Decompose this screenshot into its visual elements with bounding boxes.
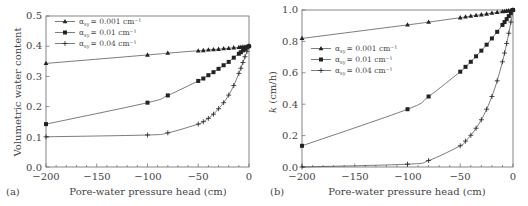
square-marker-icon bbox=[469, 60, 473, 64]
plus-marker-icon bbox=[236, 71, 241, 76]
square-marker-icon bbox=[217, 67, 221, 71]
plus-marker-icon bbox=[165, 130, 170, 135]
square-marker-icon bbox=[427, 95, 431, 99]
y-axis-label-a: Volumetric water content bbox=[12, 27, 23, 157]
square-marker-icon bbox=[63, 31, 67, 35]
square-marker-icon bbox=[458, 70, 462, 74]
x-tick-a-1: −150 bbox=[83, 171, 110, 182]
plus-marker-icon bbox=[484, 107, 489, 112]
plus-marker-icon bbox=[426, 158, 431, 163]
plus-marker-icon bbox=[489, 94, 494, 99]
plus-marker-icon bbox=[500, 59, 505, 64]
plot-area-b bbox=[300, 7, 516, 169]
plot-frame bbox=[302, 10, 513, 167]
square-marker-icon bbox=[479, 49, 483, 53]
x-tick-b-2: −100 bbox=[394, 171, 421, 182]
svg-text:αsy= 0.01 cm⁻¹: αsy= 0.01 cm⁻¹ bbox=[335, 55, 393, 66]
series-line bbox=[302, 10, 513, 146]
plus-marker-icon bbox=[502, 51, 507, 56]
y-tick-b-1: 0.2 bbox=[282, 130, 298, 141]
square-marker-icon bbox=[300, 144, 304, 148]
svg-text:αsy= 0.01 cm⁻¹: αsy= 0.01 cm⁻¹ bbox=[79, 28, 137, 39]
plus-marker-icon bbox=[145, 132, 150, 137]
x-tick-a-4: 0 bbox=[246, 171, 252, 182]
plus-marker-icon bbox=[44, 134, 49, 139]
square-marker-icon bbox=[319, 58, 323, 62]
svg-text:αsy= 0.04 cm⁻¹: αsy= 0.04 cm⁻¹ bbox=[335, 66, 393, 77]
x-tick-b-1: −150 bbox=[341, 171, 368, 182]
chart-panel-b: 0.0 0.2 0.4 0.6 0.8 1.0 −200 −150 −100 −… bbox=[264, 0, 528, 206]
x-tick-a-0: −200 bbox=[32, 171, 59, 182]
plus-marker-icon bbox=[474, 126, 479, 131]
plus-marker-icon bbox=[319, 68, 324, 73]
triangle-marker-icon bbox=[63, 19, 68, 23]
y-axis-label-b: k (cm/h) bbox=[267, 71, 278, 113]
svg-text:αsy= 0.001 cm⁻¹: αsy= 0.001 cm⁻¹ bbox=[79, 17, 141, 28]
legend-a: αsy= 0.001 cm⁻¹ αsy= 0.01 cm⁻¹ αsy= 0.04… bbox=[79, 17, 141, 50]
square-marker-icon bbox=[201, 77, 205, 81]
y-tick-a-3: 0.3 bbox=[26, 71, 42, 82]
panel-label-b: (b) bbox=[270, 186, 284, 197]
plus-marker-icon bbox=[196, 122, 201, 127]
square-marker-icon bbox=[211, 70, 215, 74]
series-line bbox=[46, 46, 249, 137]
plot-frame bbox=[46, 16, 249, 167]
x-tick-b-3: −50 bbox=[449, 171, 470, 182]
plus-marker-icon bbox=[506, 31, 511, 36]
square-marker-icon bbox=[232, 56, 236, 60]
y-tick-b-3: 0.6 bbox=[282, 67, 298, 78]
plus-marker-icon bbox=[242, 54, 247, 59]
square-marker-icon bbox=[146, 101, 150, 105]
plus-marker-icon bbox=[201, 119, 206, 124]
plus-marker-icon bbox=[226, 93, 231, 98]
square-marker-icon bbox=[474, 54, 478, 58]
y-tick-a-1: 0.1 bbox=[26, 132, 42, 143]
square-marker-icon bbox=[206, 73, 210, 77]
square-marker-icon bbox=[222, 63, 226, 67]
plus-marker-icon bbox=[63, 41, 68, 46]
plus-marker-icon bbox=[495, 78, 500, 83]
plus-marker-icon bbox=[238, 66, 243, 71]
square-marker-icon bbox=[464, 65, 468, 69]
plot-area-a bbox=[44, 16, 252, 167]
square-marker-icon bbox=[485, 43, 489, 47]
panel-label-a: (a) bbox=[6, 186, 20, 197]
y-tick-a-4: 0.4 bbox=[26, 40, 42, 51]
square-marker-icon bbox=[495, 30, 499, 34]
plus-marker-icon bbox=[405, 162, 410, 167]
plus-marker-icon bbox=[231, 83, 236, 88]
y-tick-a-5: 0.5 bbox=[26, 10, 42, 21]
triangle-marker-icon bbox=[211, 47, 216, 51]
x-tick-b-4: 0 bbox=[510, 171, 516, 182]
x-tick-a-3: −50 bbox=[187, 171, 208, 182]
svg-text:αsy= 0.04 cm⁻¹: αsy= 0.04 cm⁻¹ bbox=[79, 39, 137, 50]
series-line bbox=[302, 10, 513, 167]
svg-text:αsy= 0.001 cm⁻¹: αsy= 0.001 cm⁻¹ bbox=[335, 44, 397, 55]
square-marker-icon bbox=[490, 36, 494, 40]
y-tick-b-4: 0.8 bbox=[282, 36, 298, 47]
x-tick-a-2: −100 bbox=[134, 171, 161, 182]
square-marker-icon bbox=[196, 79, 200, 83]
x-axis-label-b: Pore-water pressure head (cm) bbox=[328, 186, 485, 197]
y-tick-b-5: 1.0 bbox=[282, 4, 298, 15]
x-axis-label-a: Pore-water pressure head (cm) bbox=[69, 186, 226, 197]
plus-marker-icon bbox=[479, 117, 484, 122]
legend-b: αsy= 0.001 cm⁻¹ αsy= 0.01 cm⁻¹ αsy= 0.04… bbox=[335, 44, 397, 77]
chart-panel-a: 0.0 0.1 0.2 0.3 0.4 0.5 −200 −150 −100 −… bbox=[0, 0, 264, 206]
y-tick-a-2: 0.2 bbox=[26, 101, 42, 112]
plus-marker-icon bbox=[504, 41, 509, 46]
plus-marker-icon bbox=[300, 165, 305, 170]
triangle-marker-icon bbox=[319, 46, 324, 50]
square-marker-icon bbox=[406, 107, 410, 111]
plus-marker-icon bbox=[458, 143, 463, 148]
x-tick-b-0: −200 bbox=[288, 171, 315, 182]
square-marker-icon bbox=[227, 60, 231, 64]
plus-marker-icon bbox=[240, 60, 245, 65]
square-marker-icon bbox=[44, 122, 48, 126]
y-tick-b-2: 0.4 bbox=[282, 99, 298, 110]
series-line bbox=[46, 46, 249, 124]
square-marker-icon bbox=[166, 93, 170, 97]
